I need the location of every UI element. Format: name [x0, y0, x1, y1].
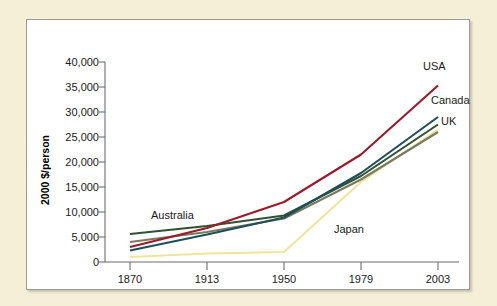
series-line-uk — [130, 132, 438, 242]
x-tick-label: 2003 — [426, 273, 450, 285]
x-axis-title: Year — [273, 289, 295, 291]
y-tick-label: 15,000 — [65, 181, 99, 193]
y-tick-label: 20,000 — [65, 156, 99, 168]
x-tick-label: 1979 — [349, 273, 373, 285]
chart-card: 2000 $/person 0 5,000 10,000 15,000 20,0… — [26, 19, 470, 290]
series-label-usa: USA — [423, 60, 446, 72]
series-label-japan: Japan — [334, 223, 364, 235]
line-chart: 2000 $/person 0 5,000 10,000 15,000 20,0… — [27, 20, 471, 291]
series-line-canada — [130, 117, 438, 251]
y-tick-label: 5,000 — [71, 231, 99, 243]
x-tick-label: 1913 — [195, 273, 219, 285]
x-axis-tick-labels: 1870 1913 1950 1979 2003 — [118, 273, 450, 285]
x-axis — [105, 262, 459, 270]
series-annotations: USA Canada UK Australia Japan — [151, 60, 470, 235]
y-tick-label: 25,000 — [65, 131, 99, 143]
series-label-uk: UK — [441, 115, 457, 127]
y-tick-label: 30,000 — [65, 106, 99, 118]
series-label-canada: Canada — [431, 94, 470, 106]
y-axis-tick-labels: 0 5,000 10,000 15,000 20,000 25,000 30,0… — [65, 56, 99, 268]
y-tick-label: 10,000 — [65, 206, 99, 218]
y-tick-label: 35,000 — [65, 81, 99, 93]
y-axis — [99, 62, 105, 262]
x-tick-label: 1950 — [272, 273, 296, 285]
series-line-japan — [130, 130, 438, 258]
y-tick-label: 0 — [93, 256, 99, 268]
series-lines — [130, 86, 438, 258]
series-line-usa — [130, 86, 438, 248]
chart-container: 2000 $/person 0 5,000 10,000 15,000 20,0… — [27, 20, 471, 291]
x-tick-label: 1870 — [118, 273, 142, 285]
series-label-australia: Australia — [151, 209, 195, 221]
screenshot-root: 2000 $/person 0 5,000 10,000 15,000 20,0… — [0, 0, 497, 306]
y-axis-title: 2000 $/person — [39, 135, 51, 205]
y-tick-label: 40,000 — [65, 56, 99, 68]
